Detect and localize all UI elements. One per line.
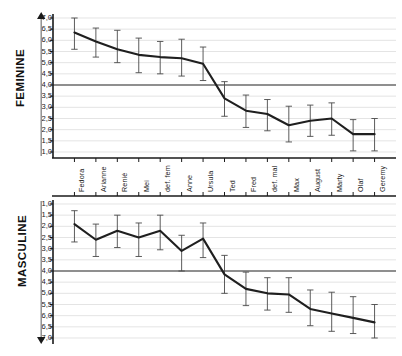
error-bar: [114, 30, 120, 62]
data-series-line: [74, 224, 374, 322]
x-tick-label: Geremy: [378, 166, 387, 192]
x-tick-label: Ursula: [206, 171, 215, 192]
x-tick-label: August: [313, 169, 322, 192]
x-tick-label: def. mal: [270, 166, 279, 192]
error-bar: [178, 235, 184, 271]
plot-area-masculine: [0, 190, 402, 356]
x-tick-label: Arianne: [99, 167, 108, 192]
axis-arrow-down-icon: [37, 337, 45, 344]
plot-area-feminine: [0, 0, 402, 200]
x-tick-label: Fedora: [77, 169, 86, 192]
axis-arrow-up-icon: [37, 12, 45, 19]
chart-panel-feminine: FEMININE 7,06,56,05,55,04,54,03,53,02,52…: [0, 0, 402, 200]
error-bar: [136, 223, 142, 257]
chart-panel-masculine: MASCULINE 1,01,52,02,53,03,54,04,55,05,5…: [0, 190, 402, 356]
x-tick-label: def. fem: [163, 165, 172, 192]
figure-two-panel-line-charts: FEMININE 7,06,56,05,55,04,54,03,53,02,52…: [0, 0, 402, 356]
error-bar: [350, 120, 356, 151]
error-bar: [328, 292, 334, 331]
error-bar: [350, 297, 356, 334]
